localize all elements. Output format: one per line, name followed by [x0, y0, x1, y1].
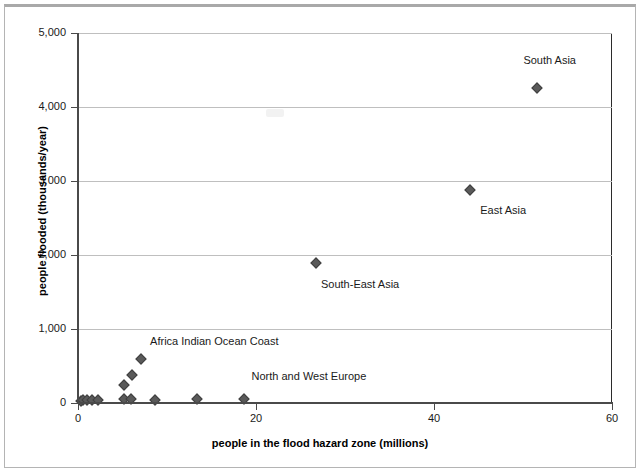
y-axis-tick [71, 33, 77, 34]
plot-right-border [611, 33, 612, 404]
data-point [119, 379, 130, 390]
data-point [532, 82, 543, 93]
data-point [464, 184, 475, 195]
x-axis-title: people in the flood hazard zone (million… [0, 437, 640, 449]
y-axis-tick [71, 403, 77, 404]
point-label: Africa Indian Ocean Coast [150, 335, 278, 347]
gridline [78, 107, 612, 108]
y-axis-tick [71, 181, 77, 182]
y-axis-tick-label: 5,000 [4, 26, 66, 38]
gridline [78, 329, 612, 330]
point-label: South-East Asia [321, 278, 399, 290]
x-axis-tick-label: 40 [414, 412, 454, 424]
gridline [78, 33, 612, 34]
x-axis-tick-label: 0 [58, 412, 98, 424]
gridline [78, 255, 612, 256]
y-axis-tick [71, 329, 77, 330]
point-label: North and West Europe [252, 370, 367, 382]
data-point [136, 353, 147, 364]
plot-area [78, 33, 612, 403]
x-axis-line [78, 402, 613, 404]
y-axis-tick-label: 0 [4, 396, 66, 408]
x-axis-tick [434, 404, 435, 410]
x-axis-tick [78, 404, 79, 410]
point-label: South Asia [523, 54, 576, 66]
y-axis-tick [71, 255, 77, 256]
x-axis-tick-label: 20 [236, 412, 276, 424]
x-axis-tick [612, 404, 613, 410]
data-point [127, 369, 138, 380]
y-axis-line [77, 33, 79, 404]
y-axis-tick-label: 2,000 [4, 248, 66, 260]
data-point [310, 257, 321, 268]
y-axis-tick-label: 3,000 [4, 174, 66, 186]
chart-figure: 01,0002,0003,0004,0005,000 0204060 South… [0, 0, 640, 476]
y-axis-tick [71, 107, 77, 108]
gridline [78, 181, 612, 182]
y-axis-title: people flooded (thousands/year) [36, 81, 48, 341]
point-label: East Asia [480, 204, 526, 216]
watermark-smudge [266, 109, 284, 117]
y-axis-tick-label: 4,000 [4, 100, 66, 112]
y-axis-tick-label: 1,000 [4, 322, 66, 334]
x-axis-tick [256, 404, 257, 410]
x-axis-tick-label: 60 [592, 412, 632, 424]
